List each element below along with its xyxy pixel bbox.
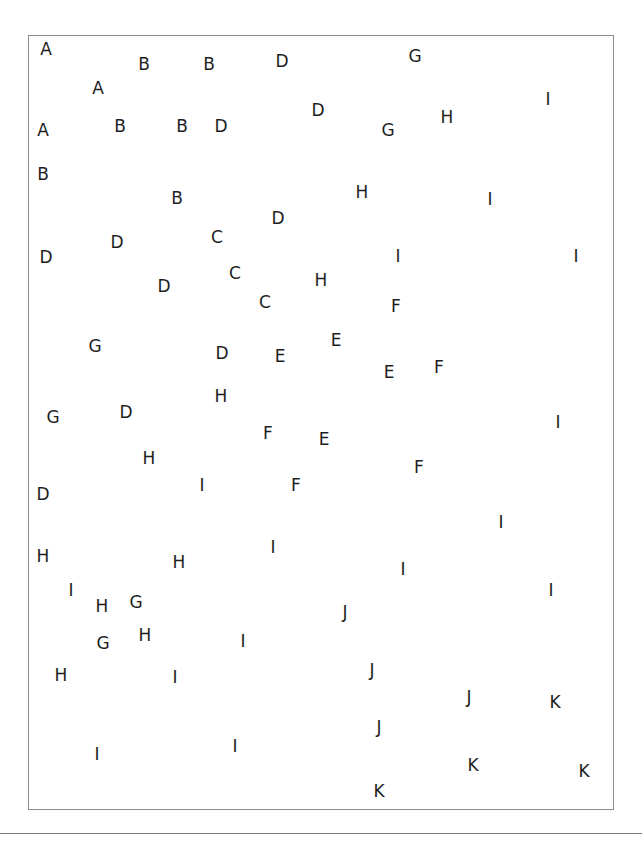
letter-g: G (381, 122, 394, 139)
letter-k: K (578, 763, 589, 780)
letter-i: I (68, 582, 73, 599)
letter-f: F (291, 477, 301, 494)
letter-h: H (96, 598, 109, 615)
letter-d: D (39, 249, 52, 266)
letter-i: I (172, 669, 177, 686)
letter-k: K (549, 694, 560, 711)
letter-d: D (157, 278, 170, 295)
letter-j: J (342, 604, 347, 621)
letter-i: I (240, 633, 245, 650)
letter-k: K (467, 757, 478, 774)
letter-i: I (400, 561, 405, 578)
letter-d: D (311, 102, 324, 119)
letter-c: C (211, 229, 223, 246)
letter-b: B (138, 56, 150, 73)
letter-d: D (36, 486, 49, 503)
letter-b: B (171, 190, 183, 207)
letter-d: D (110, 234, 123, 251)
letter-g: G (46, 409, 59, 426)
letter-a: A (92, 80, 104, 97)
letter-i: I (573, 248, 578, 265)
letter-a: A (40, 41, 52, 58)
letter-j: J (466, 689, 471, 706)
letter-d: D (271, 210, 284, 227)
letter-b: B (37, 166, 49, 183)
letter-i: I (545, 91, 550, 108)
letter-h: H (215, 388, 228, 405)
letter-h: H (143, 450, 156, 467)
letter-e: E (384, 364, 395, 381)
letter-f: F (434, 359, 444, 376)
letter-h: H (37, 548, 50, 565)
letter-i: I (199, 477, 204, 494)
letter-i: I (555, 414, 560, 431)
horizontal-rule (0, 833, 642, 834)
letter-e: E (331, 332, 342, 349)
letter-i: I (395, 248, 400, 265)
letter-d: D (275, 53, 288, 70)
letter-e: E (275, 348, 286, 365)
letter-i: I (498, 514, 503, 531)
letter-scatter: AABBDGIABBDDGHBBHIDDDCCCDHIIFGDEEEFHGDFE… (0, 0, 642, 841)
letter-i: I (487, 191, 492, 208)
letter-f: F (263, 425, 273, 442)
letter-c: C (259, 294, 271, 311)
letter-j: J (376, 719, 381, 736)
letter-f: F (391, 298, 401, 315)
letter-k: K (373, 783, 384, 800)
letter-b: B (114, 118, 126, 135)
letter-i: I (270, 539, 275, 556)
letter-g: G (129, 594, 142, 611)
letter-h: H (139, 627, 152, 644)
letter-b: B (203, 56, 215, 73)
letter-c: C (229, 265, 241, 282)
letter-h: H (315, 272, 328, 289)
letter-h: H (55, 667, 68, 684)
letter-i: I (94, 746, 99, 763)
letter-d: D (215, 345, 228, 362)
letter-d: D (214, 118, 227, 135)
letter-h: H (173, 554, 186, 571)
letter-g: G (408, 48, 421, 65)
letter-h: H (356, 184, 369, 201)
letter-f: F (414, 459, 424, 476)
letter-g: G (88, 338, 101, 355)
letter-i: I (548, 582, 553, 599)
letter-i: I (232, 738, 237, 755)
letter-a: A (37, 122, 49, 139)
letter-h: H (441, 109, 454, 126)
letter-d: D (119, 404, 132, 421)
letter-b: B (176, 118, 188, 135)
letter-j: J (369, 662, 374, 679)
letter-e: E (319, 431, 330, 448)
letter-g: G (96, 635, 109, 652)
